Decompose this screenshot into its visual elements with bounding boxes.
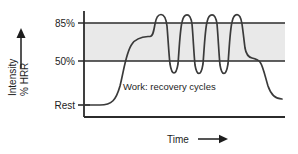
y-tick-label-rest: Rest <box>54 100 75 111</box>
work-recovery-annotation: Work: recovery cycles <box>123 81 216 92</box>
x-axis-title-time: Time <box>167 134 189 145</box>
y-tick-label-50: 50% <box>55 56 75 67</box>
interval-training-chart: 85% 50% Rest Work: recovery cycles Inten… <box>0 0 298 154</box>
right-arrow-icon <box>198 135 228 143</box>
target-zone-band <box>84 23 285 61</box>
y-axis-title-intensity: Intensity <box>7 59 18 96</box>
y-tick-label-85: 85% <box>55 18 75 29</box>
figure-canvas: 85% 50% Rest Work: recovery cycles Inten… <box>0 0 298 154</box>
